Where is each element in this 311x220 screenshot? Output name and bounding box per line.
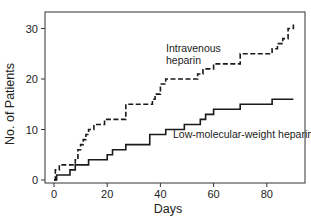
- x-tick-label: 60: [207, 188, 219, 200]
- y-tick-label: 10: [26, 124, 38, 136]
- x-tick-label: 20: [101, 188, 113, 200]
- plot-frame: [45, 12, 305, 183]
- axis-ticks: 0204060800102030: [26, 23, 273, 201]
- x-tick-label: 80: [261, 188, 273, 200]
- y-tick-label: 20: [26, 73, 38, 85]
- x-tick-label: 40: [154, 188, 166, 200]
- y-tick-label: 30: [26, 23, 38, 35]
- y-tick-label: 0: [32, 174, 38, 186]
- iv-heparin-annotation-line2: heparin: [166, 54, 201, 66]
- y-axis-label: No. of Patients: [3, 63, 17, 145]
- plot-border: [45, 12, 305, 183]
- step-chart: 0204060800102030 Intravenous heparin Low…: [0, 0, 311, 220]
- iv-heparin-annotation-line1: Intravenous: [166, 42, 221, 54]
- x-tick-label: 0: [51, 188, 57, 200]
- x-axis-label: Days: [154, 202, 182, 216]
- lmwh-annotation: Low-molecular-weight heparin: [173, 128, 311, 140]
